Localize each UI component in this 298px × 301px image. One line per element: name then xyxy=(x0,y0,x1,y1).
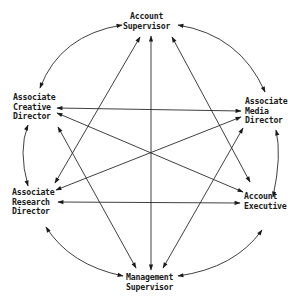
arc-ard-ms xyxy=(46,227,123,276)
arc-amd-ae xyxy=(273,130,278,197)
node-label-line: Executive xyxy=(244,202,287,212)
line-amd-ms xyxy=(163,128,243,268)
node-label-line: Director xyxy=(245,116,288,126)
node-associate-research-director: Associate Research Director xyxy=(12,188,55,217)
node-account-supervisor: Account Supervisor xyxy=(123,12,170,31)
node-label-line: Director xyxy=(13,112,56,122)
node-label-line: Supervisor xyxy=(123,22,170,32)
line-as-ard xyxy=(55,37,140,183)
node-associate-creative-director: Associate Creative Director xyxy=(13,93,56,122)
line-as-ae xyxy=(172,37,250,182)
line-acd-amd xyxy=(57,108,241,111)
arc-as-acd xyxy=(40,25,122,88)
arc-acd-ard xyxy=(23,125,28,186)
line-ard-ae xyxy=(58,202,240,203)
communication-diagram xyxy=(0,0,298,301)
node-label-line: Supervisor xyxy=(126,283,173,293)
arc-as-amd xyxy=(178,25,265,92)
node-label-line: Director xyxy=(12,207,55,217)
line-acd-ms xyxy=(58,127,136,268)
node-associate-media-director: Associate Media Director xyxy=(245,97,288,126)
arc-ae-ms xyxy=(178,230,262,276)
node-management-supervisor: Management Supervisor xyxy=(126,273,173,292)
node-account-executive: Account Executive xyxy=(244,192,287,211)
